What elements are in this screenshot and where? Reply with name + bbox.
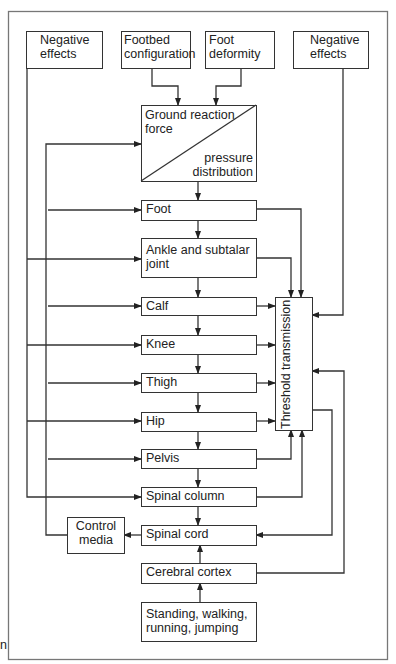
pelvis-box: Pelvis — [141, 449, 257, 469]
foot-deformity-label: Foot deformity — [209, 33, 260, 61]
foot-box: Foot — [141, 200, 257, 221]
thigh-box: Thigh — [141, 373, 257, 393]
spinal-column-label: Spinal column — [146, 489, 225, 503]
knee-box: Knee — [141, 335, 257, 355]
hip-box: Hip — [141, 412, 257, 432]
cerebral-cortex-box: Cerebral cortex — [141, 563, 257, 584]
footbed-configuration-label: Footbed configuration — [124, 33, 196, 61]
threshold-transmission-label: Threshold transmission — [279, 298, 309, 430]
negative-effects-right-label: Negative effects — [310, 33, 359, 61]
hip-label: Hip — [146, 414, 165, 428]
knee-label: Knee — [146, 337, 175, 351]
footbed-configuration-box: Footbed configuration — [121, 31, 191, 69]
ground-reaction-force-label: Ground reaction force — [145, 108, 241, 136]
negative-effects-left-box: Negative effects — [26, 31, 103, 69]
calf-box: Calf — [141, 297, 257, 316]
pressure-distribution-label: pressure distribution — [185, 151, 253, 179]
foot-deformity-box: Foot deformity — [205, 31, 275, 69]
foot-label: Foot — [146, 202, 171, 216]
ground-reaction-force-box: Ground reaction force pressure distribut… — [141, 105, 257, 182]
thigh-label: Thigh — [146, 375, 177, 389]
margin-fragment-text: n — [0, 638, 7, 652]
cerebral-cortex-label: Cerebral cortex — [146, 565, 231, 579]
calf-label: Calf — [146, 299, 168, 313]
spinal-cord-box: Spinal cord — [141, 525, 257, 546]
activities-box: Standing, walking, running, jumping — [141, 602, 257, 642]
negative-effects-right-box: Negative effects — [293, 31, 369, 69]
activities-label: Standing, walking, running, jumping — [146, 607, 247, 635]
threshold-transmission-box: Threshold transmission — [275, 297, 313, 431]
control-media-box: Control media — [67, 517, 125, 554]
ankle-box: Ankle and subtalar joint — [141, 238, 257, 278]
negative-effects-left-label: Negative effects — [40, 33, 89, 61]
control-media-label: Control media — [76, 519, 116, 547]
spinal-cord-label: Spinal cord — [146, 527, 209, 541]
pelvis-label: Pelvis — [146, 451, 179, 465]
ankle-label: Ankle and subtalar joint — [146, 243, 250, 271]
spinal-column-box: Spinal column — [141, 487, 257, 507]
